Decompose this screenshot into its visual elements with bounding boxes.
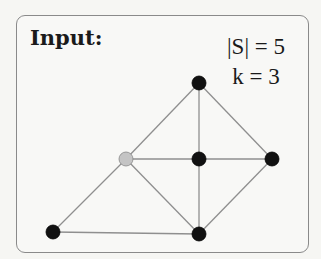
graph-edge — [53, 159, 126, 232]
graph-edge — [199, 159, 272, 234]
graph-node-top — [192, 76, 206, 90]
graph-node-bottom-left — [46, 225, 60, 239]
graph-edge — [126, 83, 199, 159]
graph-edge — [126, 159, 199, 234]
graph-node-center — [192, 152, 206, 166]
graph-node-bottom — [192, 227, 206, 241]
graph-node-gray — [119, 152, 133, 166]
graph-edge — [199, 83, 272, 159]
graph — [0, 0, 321, 259]
graph-node-right — [265, 152, 279, 166]
graph-edge — [53, 232, 199, 234]
